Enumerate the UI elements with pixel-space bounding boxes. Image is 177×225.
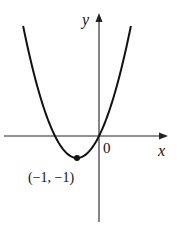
x-axis-arrow-icon xyxy=(159,133,168,140)
y-axis-arrow-icon xyxy=(96,13,103,22)
x-axis-label: x xyxy=(158,143,165,159)
y-axis-label: y xyxy=(82,12,89,28)
vertex-label: (−1, −1) xyxy=(28,171,74,185)
graph: y x 0 (−1, −1) xyxy=(0,0,177,225)
plot-area xyxy=(0,0,177,225)
parabola-curve xyxy=(23,26,131,158)
vertex-point xyxy=(74,155,80,161)
origin-label: 0 xyxy=(103,141,111,156)
